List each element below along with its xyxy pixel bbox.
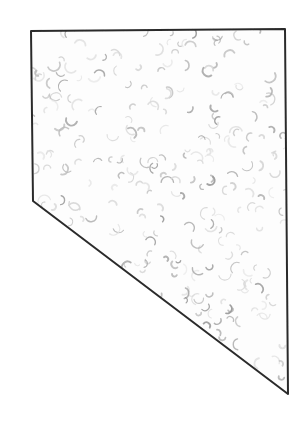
nevada-map-figure: Nevada state outline — [0, 0, 302, 425]
nevada-map-svg — [0, 0, 302, 425]
